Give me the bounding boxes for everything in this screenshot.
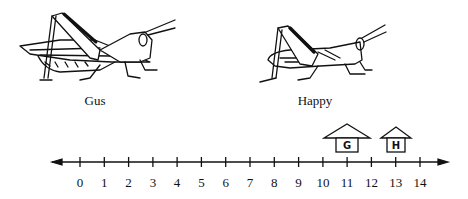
tick-label: 0 bbox=[68, 175, 92, 191]
tick-label: 1 bbox=[92, 175, 116, 191]
tick-label: 9 bbox=[287, 175, 311, 191]
tick-label: 6 bbox=[214, 175, 238, 191]
tick-label: 5 bbox=[189, 175, 213, 191]
tick-label: 8 bbox=[262, 175, 286, 191]
tick-label: 12 bbox=[359, 175, 383, 191]
svg-text:G: G bbox=[343, 140, 351, 151]
tick-label: 7 bbox=[238, 175, 262, 191]
tick-label: 13 bbox=[384, 175, 408, 191]
tick-label: 10 bbox=[311, 175, 335, 191]
tick-label: 11 bbox=[335, 175, 359, 191]
svg-text:H: H bbox=[392, 140, 400, 151]
number-line: G H bbox=[0, 0, 468, 199]
tick-label: 14 bbox=[408, 175, 432, 191]
tick-label: 2 bbox=[117, 175, 141, 191]
tick-label: 3 bbox=[141, 175, 165, 191]
tick-label: 4 bbox=[165, 175, 189, 191]
